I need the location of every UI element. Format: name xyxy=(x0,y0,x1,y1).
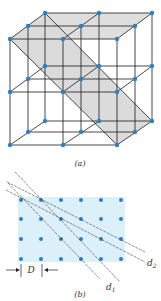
spacing-label: D xyxy=(26,265,34,275)
caption-b: (b) xyxy=(74,290,85,299)
cubic-lattice xyxy=(8,11,154,147)
planar-lattice: d1 d2 D xyxy=(6,172,157,293)
caption-a: (a) xyxy=(74,159,85,168)
crystal-lattice-figure: (a) d1 d2 D (b xyxy=(0,0,161,301)
label-d1: d1 xyxy=(106,282,116,293)
label-d2: d2 xyxy=(147,258,157,269)
lattice-background xyxy=(18,197,125,262)
